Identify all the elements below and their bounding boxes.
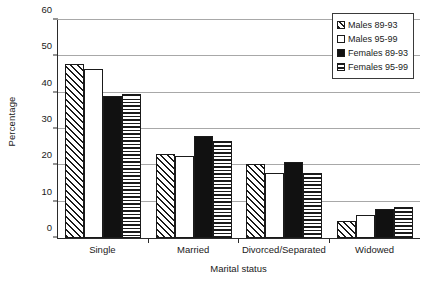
x-axis-tick-mark xyxy=(148,238,149,243)
bar-chart: Percentage 0102030405060 SingleMarriedDi… xyxy=(0,0,432,287)
bar xyxy=(65,64,84,238)
y-axis-tick-label: 20 xyxy=(12,149,58,160)
bar xyxy=(394,207,413,238)
x-axis-tick-labels: SingleMarriedDivorced/SeparatedWidowed xyxy=(57,244,420,255)
bar xyxy=(356,215,375,238)
y-axis-tick-label: 30 xyxy=(12,113,58,124)
bar xyxy=(122,94,141,238)
bar xyxy=(175,156,194,238)
y-axis-tick-label: 0 xyxy=(12,222,58,233)
bar xyxy=(156,154,175,238)
legend-item[interactable]: Males 89-93 xyxy=(337,18,408,32)
x-axis-tick-label: Widowed xyxy=(329,244,420,255)
bar xyxy=(246,164,265,238)
y-axis-tick-label: 10 xyxy=(12,185,58,196)
legend-swatch-icon xyxy=(337,21,345,29)
legend-item-label: Females 89-93 xyxy=(348,49,408,58)
bar xyxy=(375,209,394,238)
bar xyxy=(194,136,213,238)
legend: Males 89-93Males 95-99Females 89-93Femal… xyxy=(332,13,414,79)
x-axis-tick-mark xyxy=(238,238,239,243)
legend-item-label: Males 95-99 xyxy=(348,35,398,44)
bar-group xyxy=(58,20,149,238)
legend-swatch-icon xyxy=(337,35,345,43)
x-axis-tick-label: Divorced/Separated xyxy=(239,244,330,255)
y-axis-tick-label: 40 xyxy=(12,76,58,87)
bar-group xyxy=(149,20,240,238)
legend-item-label: Females 95-99 xyxy=(348,63,408,72)
bar-group xyxy=(239,20,330,238)
bar xyxy=(213,141,232,238)
bar xyxy=(303,173,322,238)
y-axis-tick-label: 50 xyxy=(12,40,58,51)
legend-item[interactable]: Males 95-99 xyxy=(337,32,408,46)
x-axis-tick-label: Single xyxy=(57,244,148,255)
x-axis-tick-label: Married xyxy=(148,244,239,255)
bar xyxy=(284,162,303,238)
legend-item[interactable]: Females 89-93 xyxy=(337,46,408,60)
legend-swatch-icon xyxy=(337,49,345,57)
legend-swatch-icon xyxy=(337,63,345,71)
legend-item-label: Males 89-93 xyxy=(348,21,398,30)
bar xyxy=(337,221,356,238)
legend-item[interactable]: Females 95-99 xyxy=(337,60,408,74)
bar xyxy=(84,69,103,238)
bar xyxy=(265,173,284,238)
x-axis-title-label: Marital status xyxy=(210,263,267,274)
x-axis-title: Marital status xyxy=(57,263,420,274)
y-axis-tick-label: 60 xyxy=(12,4,58,15)
bar xyxy=(103,96,122,238)
x-axis-tick-mark xyxy=(329,238,330,243)
